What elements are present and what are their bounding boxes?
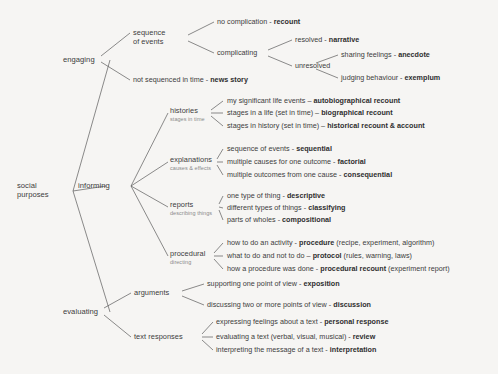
leaf-exposition: supporting one point of view - expositio… [207,280,340,288]
leaf-discussion: discussing two or more points of view - … [207,301,371,309]
node-histories-sublabel: stages in time [170,116,205,122]
node-arguments-label: arguments [134,289,169,298]
node-sequence-of-events: sequence of events [133,29,165,46]
leaf-procedural-recount-desc: how a procedure was done - [227,264,320,273]
node-text-responses: text responses [134,333,183,342]
branch-informing: informing [78,182,110,191]
leaf-no-complication: no complication - recount [217,18,300,26]
leaf-protocol-desc: what to do and not to do – [227,251,313,260]
leaf-protocol: what to do and not to do – protocol (rul… [227,252,412,260]
leaf-personal-response-desc: expressing feelings about a text - [216,317,324,326]
leaf-exemplum-desc: judging behaviour - [341,73,405,82]
leaf-discussion-genre: discussion [333,300,371,309]
leaf-sequential-genre: sequential [296,144,332,153]
leaf-consequential-desc: multiple outcomes from one cause - [227,170,344,179]
node-procedural: procedural directing [170,250,205,266]
node-text-responses-label: text responses [134,333,183,342]
leaf-factorial-genre: factorial [338,157,366,166]
node-explanations-sublabel: causes & effects [170,165,212,171]
node-unresolved: unresolved [295,62,330,70]
leaf-personal-response-genre: personal response [324,317,388,326]
leaf-descriptive-desc: one type of thing - [227,191,287,200]
node-procedural-label: procedural [170,250,205,259]
leaf-review-desc: evaluating a text (verbal, visual, music… [216,332,353,341]
leaf-review: evaluating a text (verbal, visual, music… [216,333,375,341]
leaf-sequential: sequence of events - sequential [227,145,332,153]
branch-engaging: engaging [63,56,95,65]
leaf-exemplum: judging behaviour - exemplum [341,74,440,82]
leaf-interpretation-genre: interpretation [330,345,377,354]
node-sequence-of-events-line2: of events [133,38,165,47]
leaf-procedural-recount: how a procedure was done - procedural re… [227,265,450,273]
leaf-sequential-desc: sequence of events - [227,144,296,153]
node-procedural-sublabel: directing [170,259,205,265]
node-explanations-label: explanations [170,156,212,165]
leaf-procedure: how to do an activity - procedure (recip… [227,239,434,247]
node-reports: reports describing things [170,201,212,217]
node-arguments: arguments [134,289,169,298]
leaf-biographical-recount: stages in a life (set in time) – biograp… [227,109,393,117]
leaf-consequential: multiple outcomes from one cause - conse… [227,171,392,179]
node-complicating: complicating [217,49,257,57]
leaf-historical-recount-account: stages in history (set in time) – histor… [227,122,425,130]
node-reports-sublabel: describing things [170,210,212,216]
leaf-resolved-genre: narrative [329,35,360,44]
leaf-biographical-recount-desc: stages in a life (set in time) – [227,108,321,117]
node-complicating-label: complicating [217,48,257,57]
leaf-descriptive: one type of thing - descriptive [227,192,325,200]
leaf-interpretation: interpreting the message of a text - int… [216,346,376,354]
leaf-exposition-desc: supporting one point of view - [207,279,304,288]
node-histories-label: histories [170,107,205,116]
leaf-review-genre: review [353,332,376,341]
leaf-historical-recount-account-genre: historical recount & account [327,121,425,130]
leaf-compositional-desc: parts of wholes - [227,215,282,224]
leaf-resolved-narrative: resolved - narrative [295,36,359,44]
leaf-autobiographical-recount-desc: my significant life events – [227,96,313,105]
leaf-classifying-genre: classifying [308,203,345,212]
leaf-protocol-paren: (rules, warning, laws) [342,251,412,260]
leaf-procedural-recount-paren: (experiment report) [386,264,450,273]
social-purposes-diagram: social purposes engaging sequence of eve… [0,0,498,374]
leaf-factorial-desc: multiple causes for one outcome - [227,157,338,166]
leaf-procedural-recount-genre: procedural recount [320,264,386,273]
leaf-classifying-desc: different types of things - [227,203,308,212]
node-reports-label: reports [170,201,212,210]
leaf-procedure-paren: (recipe, experiment, algorithm) [334,238,434,247]
leaf-no-complication-desc: no complication - [217,17,274,26]
leaf-compositional: parts of wholes - compositional [227,216,331,224]
node-histories: histories stages in time [170,107,205,123]
node-unresolved-label: unresolved [295,61,330,70]
root-label-line2: purposes [17,191,49,200]
leaf-historical-recount-account-desc: stages in history (set in time) – [227,121,327,130]
leaf-interpretation-desc: interpreting the message of a text - [216,345,330,354]
leaf-exposition-genre: exposition [304,279,340,288]
branch-informing-label: informing [78,181,110,190]
leaf-classifying: different types of things - classifying [227,204,346,212]
leaf-discussion-desc: discussing two or more points of view - [207,300,333,309]
branch-evaluating-label: evaluating [63,307,98,316]
leaf-descriptive-genre: descriptive [287,191,325,200]
leaf-news-story-desc: not sequenced in time - [133,75,210,84]
leaf-autobiographical-recount: my significant life events – autobiograp… [227,97,400,105]
branch-evaluating: evaluating [63,308,98,317]
leaf-anecdote-desc: sharing feelings - [341,50,398,59]
leaf-anecdote-genre: anecdote [398,50,430,59]
leaf-news-story: not sequenced in time - news story [133,76,248,84]
leaf-anecdote: sharing feelings - anecdote [341,51,430,59]
leaf-biographical-recount-genre: biographical recount [321,108,393,117]
branch-engaging-label: engaging [63,55,95,64]
leaf-procedure-desc: how to do an activity - [227,238,299,247]
leaf-resolved-desc: resolved - [295,35,329,44]
leaf-factorial: multiple causes for one outcome - factor… [227,158,366,166]
node-explanations: explanations causes & effects [170,156,212,172]
leaf-no-complication-genre: recount [274,17,301,26]
leaf-autobiographical-recount-genre: autobiographical recount [313,96,400,105]
leaf-procedure-genre: procedure [299,238,334,247]
leaf-news-story-genre: news story [210,75,248,84]
leaf-exemplum-genre: exemplum [405,73,441,82]
leaf-personal-response: expressing feelings about a text - perso… [216,318,388,326]
root-node-social-purposes: social purposes [17,182,49,200]
leaf-compositional-genre: compositional [282,215,331,224]
leaf-consequential-genre: consequential [344,170,393,179]
leaf-protocol-genre: protocol [313,251,342,260]
